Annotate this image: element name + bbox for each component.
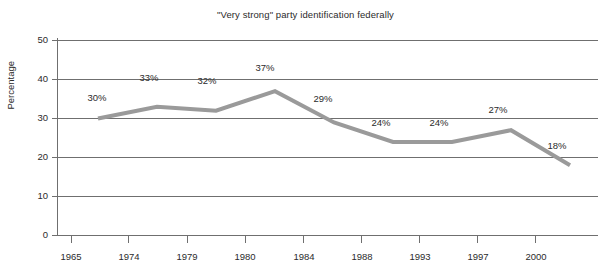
x-tick-label-1974: 1974	[106, 252, 152, 262]
point-label-1984: 29%	[303, 94, 343, 104]
x-tick-label-1984: 1984	[281, 252, 327, 262]
point-label-1988: 24%	[361, 118, 401, 128]
x-axis-ticks	[72, 235, 536, 243]
x-tick-label-1997: 1997	[455, 252, 501, 262]
point-label-1980: 37%	[245, 63, 285, 73]
y-axis-ticks	[52, 41, 57, 236]
x-tick-label-2000: 2000	[513, 252, 559, 262]
x-tick-label-1993: 1993	[397, 252, 443, 262]
plot-area	[0, 0, 611, 279]
point-label-1993: 24%	[419, 118, 459, 128]
chart-container: "Very strong" party identification feder…	[0, 0, 611, 279]
point-label-2000: 18%	[537, 141, 577, 151]
point-label-1997: 27%	[478, 105, 518, 115]
x-tick-label-1988: 1988	[339, 252, 385, 262]
x-tick-label-1965: 1965	[48, 252, 94, 262]
point-label-1965: 30%	[77, 93, 117, 103]
x-tick-label-1980: 1980	[222, 252, 268, 262]
point-label-1974: 33%	[129, 73, 169, 83]
x-tick-label-1979: 1979	[164, 252, 210, 262]
point-label-1979: 32%	[187, 76, 227, 86]
